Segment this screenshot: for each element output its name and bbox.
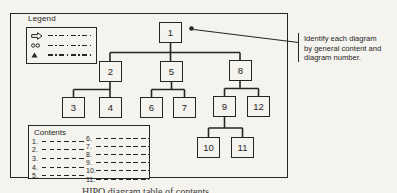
dashed-blank-line xyxy=(42,141,86,142)
legend-item xyxy=(31,51,92,60)
tree-node-10: 10 xyxy=(197,137,220,158)
callout-line-2: by general content and xyxy=(304,44,394,54)
contents-item: 1. xyxy=(32,137,86,146)
tree-node-8: 8 xyxy=(229,60,252,81)
tree-node-7: 7 xyxy=(173,97,196,118)
tree-node-9: 9 xyxy=(213,96,236,117)
dashed-blank-line xyxy=(42,158,86,159)
open-arrow-icon xyxy=(31,32,44,40)
contents-box: Contents 1. 2. 3. 4. 5. 6. 7. 8. 9. 10. … xyxy=(28,125,150,179)
tree-node-4: 4 xyxy=(99,97,122,118)
contents-item: 8. xyxy=(86,150,149,158)
contents-item: 4. xyxy=(32,163,86,172)
legend-rule-line xyxy=(48,45,92,46)
callout-bracket-line xyxy=(298,33,299,62)
tree-node-6: 6 xyxy=(140,97,163,118)
dashed-blank-line xyxy=(42,149,86,150)
dashed-blank-line xyxy=(96,178,149,179)
contents-item: 2. xyxy=(32,146,86,155)
figure-caption: HIPO diagram table of contents xyxy=(82,186,209,193)
contents-item: 5. xyxy=(32,171,86,180)
tree-node-5: 5 xyxy=(160,61,183,82)
dashed-blank-line xyxy=(42,167,86,168)
contents-item: 11. xyxy=(86,175,149,183)
contents-item: 7. xyxy=(86,142,149,150)
dashed-blank-line xyxy=(96,138,149,139)
contents-item: 3. xyxy=(32,154,86,163)
callout-line-3: diagram number. xyxy=(304,53,394,63)
tree-node-1: 1 xyxy=(159,22,182,43)
legend-box xyxy=(26,27,97,64)
dashed-blank-line xyxy=(96,170,149,171)
dashed-blank-line xyxy=(96,154,149,155)
legend-item xyxy=(31,41,92,50)
triangle-icon xyxy=(31,52,44,58)
dashed-blank-line xyxy=(96,146,149,147)
legend-item xyxy=(31,31,92,40)
contents-title: Contents xyxy=(34,128,66,137)
callout-line-1: Identify each diagram xyxy=(304,34,394,44)
dashed-blank-line xyxy=(42,175,86,176)
tree-node-3: 3 xyxy=(62,97,85,118)
legend-rule-line xyxy=(48,35,92,36)
double-circle-icon xyxy=(31,43,44,48)
dashed-blank-line xyxy=(96,162,149,163)
contents-right-column: 6. 7. 8. 9. 10. 11. xyxy=(86,134,149,183)
contents-item: 10. xyxy=(86,167,149,175)
contents-item: 9. xyxy=(86,159,149,167)
legend-rule-line xyxy=(48,54,92,55)
legend-title: Legend xyxy=(28,14,56,23)
contents-left-column: 1. 2. 3. 4. 5. xyxy=(32,137,86,180)
tree-node-11: 11 xyxy=(231,137,254,158)
callout-annotation: Identify each diagram by general content… xyxy=(304,34,394,63)
tree-node-2: 2 xyxy=(99,61,122,82)
callout-leader xyxy=(189,26,298,42)
contents-item: 6. xyxy=(86,134,149,142)
tree-node-12: 12 xyxy=(247,96,270,117)
